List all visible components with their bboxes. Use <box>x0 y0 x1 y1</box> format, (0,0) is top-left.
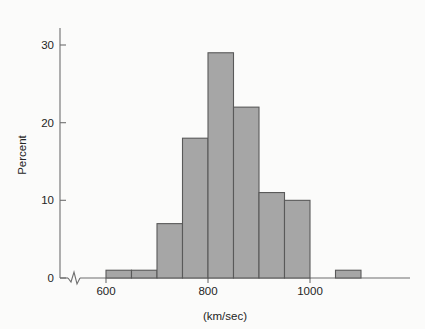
x-tick-label-600: 600 <box>96 285 115 297</box>
x-axis-title: (km/sec) <box>203 310 247 322</box>
x-tick-label-1000: 1000 <box>297 285 323 297</box>
histogram-bar <box>183 138 209 278</box>
axis-break-icon <box>68 272 80 284</box>
histogram-bar <box>259 193 285 278</box>
y-axis-title: Percent <box>16 134 28 174</box>
histogram-bar <box>106 270 132 278</box>
histogram-bar <box>234 107 260 278</box>
histogram-bars <box>106 53 361 278</box>
histogram-bar <box>208 53 234 278</box>
histogram-figure: 0 10 20 30 Percent 600 800 1000 (km/sec) <box>0 0 425 329</box>
y-tick-label-20: 20 <box>41 117 54 129</box>
x-tick-label-800: 800 <box>198 285 217 297</box>
histogram-plot: 0 10 20 30 Percent 600 800 1000 (km/sec) <box>0 0 425 329</box>
y-tick-label-10: 10 <box>41 194 54 206</box>
histogram-bar <box>285 200 311 278</box>
y-tick-label-0: 0 <box>48 272 54 284</box>
y-tick-label-30: 30 <box>41 39 54 51</box>
histogram-bar <box>336 270 362 278</box>
histogram-bar <box>157 224 183 278</box>
histogram-bar <box>132 270 158 278</box>
